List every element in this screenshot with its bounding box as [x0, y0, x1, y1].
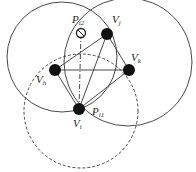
label-Vj: Vj — [112, 13, 121, 27]
node-Vj — [101, 28, 113, 40]
edge-Vi-Pi2 — [79, 33, 81, 109]
label-Pi2: Pi2 — [71, 13, 85, 27]
label-Vk: Vk — [131, 51, 142, 65]
edge-Vh-Vi — [55, 70, 79, 109]
label-Vh: Vh — [36, 73, 47, 87]
node-Vi — [73, 103, 85, 115]
node-Vk — [123, 64, 135, 76]
diagram: VhVjVkViPi2Pi1 — [0, 0, 196, 172]
edge-Vj-Vk — [107, 34, 129, 70]
label-Vi: Vi — [73, 117, 82, 131]
edge-Vh-Vj — [55, 34, 107, 70]
label-Pi1: Pi1 — [91, 105, 104, 119]
node-Vh — [49, 64, 61, 76]
